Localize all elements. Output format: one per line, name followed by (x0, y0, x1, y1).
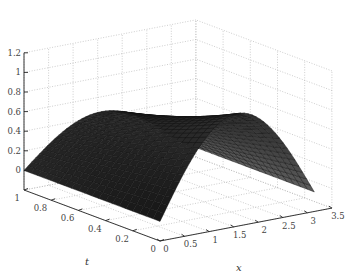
x-tick-label: 0 (163, 244, 168, 254)
t-tick-label: 0.6 (61, 213, 75, 223)
grid-line (196, 40, 332, 91)
grid-line (24, 20, 196, 53)
x-tick-label: 1 (212, 235, 217, 245)
x-tick-label: 2 (261, 225, 266, 235)
grid-line (24, 40, 196, 73)
x-tick-label: 2.5 (282, 221, 296, 231)
z-tick-label: 1 (16, 67, 21, 77)
t-axis-label: t (85, 256, 90, 267)
t-tick-label: 0.8 (34, 203, 48, 213)
t-tick-label: 0.2 (115, 234, 129, 244)
x-tick-label: 0.5 (184, 239, 198, 249)
grid-line (196, 20, 332, 71)
t-tick-label: 0 (151, 244, 156, 254)
z-tick-label: 0 (16, 165, 21, 175)
grid-line (24, 79, 196, 112)
z-tick-label: 0.2 (7, 146, 21, 156)
z-tick-label: 0.4 (7, 126, 21, 136)
z-tick-label: 0.8 (7, 87, 21, 97)
z-tick-label: 0.6 (7, 107, 21, 117)
t-tick-label: 1 (15, 193, 20, 203)
x-tick-label: 3 (311, 216, 316, 226)
grid-line (24, 59, 196, 92)
surface-plot: 00.20.40.60.811.200.20.40.60.8100.511.52… (0, 0, 357, 277)
x-tick-label: 1.5 (233, 230, 247, 240)
x-axis-label: x (236, 262, 242, 273)
z-tick-label: 1.2 (7, 48, 21, 58)
grid-line (196, 59, 332, 110)
x-tick-label: 3.5 (331, 211, 345, 221)
surface-mesh (24, 111, 314, 222)
t-tick-label: 0.4 (88, 224, 102, 234)
